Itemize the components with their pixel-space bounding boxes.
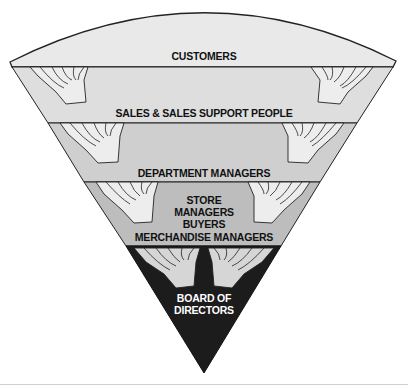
label-store-line4: MERCHANDISE MANAGERS: [135, 231, 274, 243]
label-board-line2: DIRECTORS: [174, 304, 234, 316]
divider: [0, 384, 408, 385]
label-sales: SALES & SALES SUPPORT PEOPLE: [115, 107, 292, 119]
label-store-line1: STORE: [187, 194, 222, 206]
inverted-pyramid-diagram: CUSTOMERS SALES & SALES SUPPORT PEOPLE D…: [0, 0, 408, 388]
label-board-line1: BOARD OF: [177, 292, 232, 304]
label-customers: CUSTOMERS: [171, 50, 236, 62]
label-department: DEPARTMENT MANAGERS: [138, 167, 271, 179]
label-store-line3: BUYERS: [183, 218, 226, 230]
label-store-line2: MANAGERS: [174, 206, 234, 218]
